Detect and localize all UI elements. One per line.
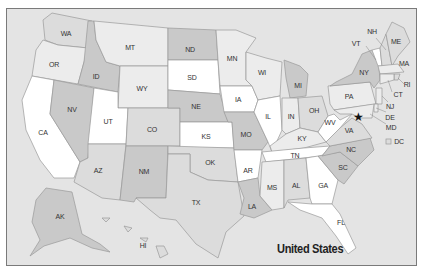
label-mn: MN — [227, 55, 238, 62]
label-az: AZ — [94, 167, 103, 174]
label-md: MD — [386, 124, 397, 131]
label-in: IN — [288, 113, 295, 120]
state-dc-box[interactable] — [386, 139, 391, 144]
label-nd: ND — [185, 46, 195, 53]
label-ca: CA — [38, 129, 48, 136]
label-tx: TX — [192, 199, 201, 206]
label-de: DE — [385, 114, 395, 121]
label-id: ID — [93, 73, 100, 80]
state-hi-3[interactable] — [124, 226, 132, 232]
label-wv: WV — [325, 119, 336, 126]
label-mi: MI — [294, 82, 302, 89]
label-ia: IA — [235, 96, 242, 103]
label-nm: NM — [139, 168, 150, 175]
state-hi-4[interactable] — [102, 218, 110, 222]
label-ga: GA — [318, 182, 328, 189]
label-la: LA — [248, 203, 257, 210]
label-vt: VT — [352, 40, 361, 47]
label-dc: DC — [394, 138, 404, 145]
map-title: United States — [277, 241, 343, 256]
label-ny: NY — [359, 69, 369, 76]
label-ma: MA — [399, 60, 410, 67]
label-ri: RI — [404, 81, 411, 88]
label-nc: NC — [346, 146, 356, 153]
label-wy: WY — [137, 85, 148, 92]
label-me: ME — [391, 38, 402, 45]
label-co: CO — [147, 126, 158, 133]
label-sd: SD — [187, 74, 196, 81]
label-nj: NJ — [386, 103, 394, 110]
us-map: ★ WA OR CA ID NV MT WY UT AZ CO NM ND SD… — [0, 0, 423, 276]
label-hi: HI — [140, 242, 147, 249]
label-ar: AR — [243, 167, 252, 174]
state-mi[interactable] — [284, 60, 308, 98]
star-icon: ★ — [353, 110, 364, 124]
state-ak[interactable] — [30, 188, 110, 256]
label-mt: MT — [125, 44, 136, 51]
label-sc: SC — [338, 164, 347, 171]
label-mo: MO — [241, 131, 253, 138]
state-nj[interactable] — [376, 88, 382, 104]
state-nd[interactable] — [168, 28, 218, 60]
label-tn: TN — [291, 152, 300, 159]
label-ky: KY — [298, 135, 307, 142]
label-ct: CT — [394, 91, 404, 98]
label-wa: WA — [61, 30, 72, 37]
label-va: VA — [345, 127, 354, 134]
label-ut: UT — [104, 118, 114, 125]
label-nh: NH — [367, 28, 377, 35]
label-or: OR — [49, 61, 59, 68]
label-fl: FL — [337, 219, 345, 226]
state-ny[interactable] — [330, 50, 380, 88]
label-ak: AK — [56, 213, 65, 220]
state-hi-1[interactable] — [156, 246, 168, 258]
label-al: AL — [292, 182, 300, 189]
label-ks: KS — [202, 133, 211, 140]
label-ms: MS — [267, 184, 278, 191]
label-nv: NV — [67, 106, 77, 113]
label-pa: PA — [345, 93, 354, 100]
label-il: IL — [265, 113, 271, 120]
label-ne: NE — [191, 103, 201, 110]
label-wi: WI — [258, 69, 266, 76]
label-oh: OH — [309, 107, 319, 114]
state-ar[interactable] — [234, 150, 262, 182]
label-ok: OK — [205, 159, 215, 166]
state-ct[interactable] — [380, 74, 394, 84]
